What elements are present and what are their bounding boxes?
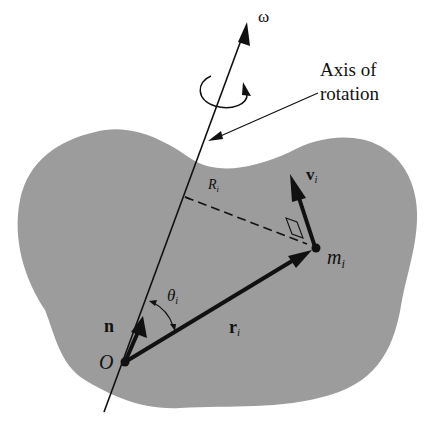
rigid-body-shape — [18, 129, 418, 408]
R-i-label: Ri — [208, 178, 219, 192]
omega-text: ω — [258, 7, 269, 26]
axis-label-line2: rotation — [320, 82, 379, 106]
r-i-label: ri — [229, 318, 240, 336]
mass-point-m-i — [312, 244, 321, 253]
theta-i-label: θi — [167, 287, 178, 304]
m-subscript: i — [341, 257, 344, 271]
origin-point-O — [121, 358, 130, 367]
r-text: r — [229, 317, 237, 337]
rotation-direction-curl — [200, 76, 247, 108]
n-text: n — [104, 316, 114, 336]
v-subscript: i — [315, 174, 318, 185]
R-text: R — [208, 177, 217, 192]
r-subscript: i — [237, 326, 240, 338]
axis-arrowhead — [238, 22, 250, 46]
axis-of-rotation-label: Axis of rotation — [320, 58, 379, 106]
omega-label: ω — [258, 8, 269, 25]
m-text: m — [327, 246, 341, 268]
diagram-canvas: ω Axis of rotation Ri vi mi θi n ri O — [0, 0, 432, 430]
axis-callout-pointer — [216, 93, 318, 138]
origin-text: O — [99, 351, 113, 373]
origin-label: O — [99, 352, 113, 372]
theta-subscript: i — [175, 295, 178, 306]
n-label: n — [104, 317, 114, 335]
v-text: v — [306, 165, 315, 184]
curl-arrowhead — [242, 82, 251, 96]
R-subscript: i — [217, 184, 219, 194]
callout-arrowhead — [208, 131, 223, 141]
m-i-label: mi — [327, 247, 345, 267]
v-i-label: vi — [306, 166, 317, 183]
axis-label-line1: Axis of — [320, 58, 379, 82]
